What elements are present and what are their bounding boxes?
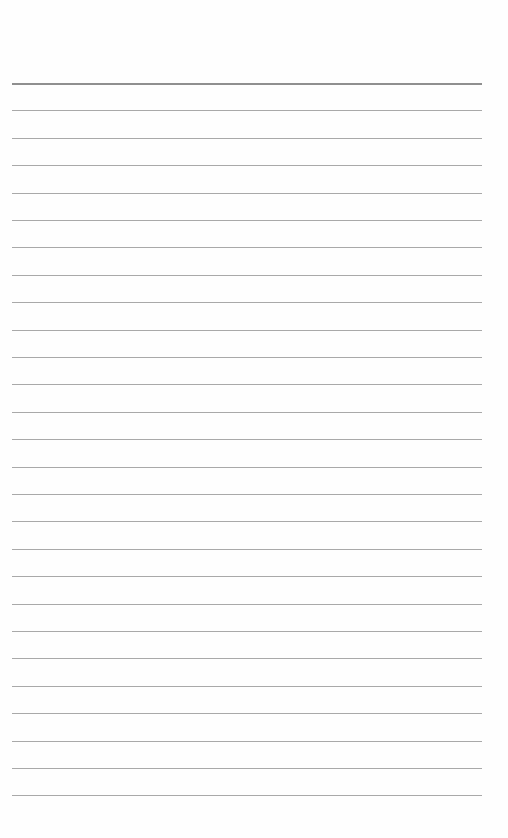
rule-line bbox=[12, 110, 482, 111]
rule-line bbox=[12, 439, 482, 440]
top-rule-line bbox=[12, 83, 482, 85]
rule-line bbox=[12, 768, 482, 769]
rule-line bbox=[12, 795, 482, 796]
rule-line bbox=[12, 384, 482, 385]
rule-line bbox=[12, 193, 482, 194]
rule-line bbox=[12, 521, 482, 522]
rule-line bbox=[12, 220, 482, 221]
rule-line bbox=[12, 467, 482, 468]
rule-line bbox=[12, 576, 482, 577]
rule-line bbox=[12, 165, 482, 166]
rule-line bbox=[12, 357, 482, 358]
rule-line bbox=[12, 412, 482, 413]
lined-paper-page bbox=[0, 0, 508, 838]
rule-line bbox=[12, 713, 482, 714]
rule-line bbox=[12, 604, 482, 605]
rule-line bbox=[12, 138, 482, 139]
rule-line bbox=[12, 741, 482, 742]
rule-line bbox=[12, 494, 482, 495]
rule-line bbox=[12, 686, 482, 687]
rule-line bbox=[12, 549, 482, 550]
rule-line bbox=[12, 631, 482, 632]
rule-line bbox=[12, 247, 482, 248]
rule-line bbox=[12, 275, 482, 276]
rule-line bbox=[12, 302, 482, 303]
rule-line bbox=[12, 330, 482, 331]
rule-line bbox=[12, 658, 482, 659]
